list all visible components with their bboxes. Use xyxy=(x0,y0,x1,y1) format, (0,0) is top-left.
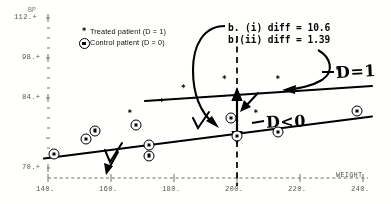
handwritten-check-marks xyxy=(105,112,209,162)
legend-label-treated: Treated patient (D = 1) xyxy=(90,27,166,36)
data-point-treated: * xyxy=(222,68,226,86)
x-tick-label-200: 200. xyxy=(225,185,243,193)
y-tick-label-70: 70.+ xyxy=(22,163,40,171)
data-point-control xyxy=(90,125,101,136)
data-point-treated: * xyxy=(254,102,258,120)
data-point-control xyxy=(351,105,362,116)
legend-item-control: Control patient (D = 0) xyxy=(78,37,166,48)
data-point-treated: * xyxy=(128,102,132,120)
data-point-treated: * xyxy=(181,77,185,95)
data-point-control xyxy=(232,130,243,141)
figure-canvas: BP 112.+ 98.+ 84.+ 70.+ 140. 160. 180. 2… xyxy=(0,0,391,204)
data-point-control xyxy=(143,139,154,150)
y-tick-label-98: 98.+ xyxy=(22,53,40,61)
regression-line-control xyxy=(44,117,372,159)
data-point-treated: * xyxy=(159,91,163,109)
x-tick-label-180: 180. xyxy=(162,185,180,193)
plot-artwork xyxy=(0,0,391,204)
data-point-treated: * xyxy=(336,59,340,77)
y-tick-label-112: 112.+ xyxy=(14,13,37,21)
annotation-diff-ii: b.(ii) diff = 1.39 xyxy=(228,34,330,45)
y-tick-label-84: 84.+ xyxy=(22,93,40,101)
data-point-control xyxy=(131,120,142,131)
annotation-diff-i: b. (i) diff = 10.6 xyxy=(228,22,330,33)
d0-leader-dash xyxy=(252,121,264,123)
line-label-d1: D=1 xyxy=(336,61,377,82)
legend: * Treated patient (D = 1) Control patien… xyxy=(78,26,166,48)
legend-label-control: Control patient (D = 0) xyxy=(90,38,165,47)
data-point-control xyxy=(143,150,154,161)
data-point-control xyxy=(225,113,236,124)
x-tick-label-160: 160. xyxy=(99,185,117,193)
data-point-control xyxy=(49,148,60,159)
x-tick-label-220: 220. xyxy=(288,185,306,193)
legend-item-treated: * Treated patient (D = 1) xyxy=(78,26,166,37)
x-axis-title: WEIGHT xyxy=(336,171,362,179)
data-point-treated: * xyxy=(276,68,280,86)
x-axis xyxy=(48,172,368,184)
x-tick-label-140: 140. xyxy=(36,185,54,193)
x-tick-label-240: 240. xyxy=(351,185,369,193)
circled-dot-marker-icon xyxy=(78,34,90,52)
data-point-control xyxy=(272,127,283,138)
